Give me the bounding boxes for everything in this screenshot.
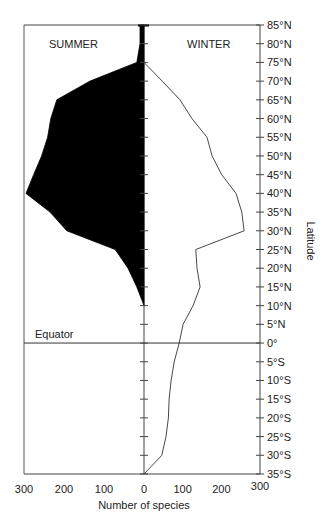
latitude-tick-label: 25°S — [267, 431, 291, 443]
winter-label: WINTER — [187, 38, 230, 50]
latitude-tick-label: 5°N — [267, 318, 286, 330]
latitude-tick-label: 25°N — [267, 244, 292, 256]
summer-series-area — [26, 25, 144, 306]
species-tick-label-winter: 200 — [212, 483, 230, 495]
latitude-tick-label: 75°N — [267, 56, 292, 68]
latitude-tick-label: 65°N — [267, 94, 292, 106]
species-axis-ticks: 3002001000100200300 — [15, 480, 269, 495]
summer-label: SUMMER — [49, 38, 98, 50]
latitude-tick-label: 35°S — [267, 468, 291, 480]
latitude-tick-label: 60°N — [267, 113, 292, 125]
latitude-tick-label: 45°N — [267, 169, 292, 181]
species-tick-label-winter: 100 — [173, 483, 191, 495]
species-tick-label-summer: 300 — [15, 483, 33, 495]
winter-series-line — [144, 62, 244, 474]
latitude-tick-label: 15°S — [267, 393, 291, 405]
species-tick-label-summer: 0 — [141, 483, 147, 495]
latitude-tick-label: 50°N — [267, 150, 292, 162]
latitude-tick-label: 20°S — [267, 412, 291, 424]
latitude-tick-label: 30°N — [267, 225, 292, 237]
latitude-axis: 85°N80°N75°N70°N65°N60°N55°N50°N45°N40°N… — [256, 19, 292, 480]
latitude-tick-label: 85°N — [267, 19, 292, 31]
species-tick-label-summer: 100 — [95, 483, 113, 495]
latitude-tick-label: 40°N — [267, 187, 292, 199]
latitude-tick-label: 0° — [267, 337, 278, 349]
latitude-tick-label: 10°N — [267, 300, 292, 312]
latitude-tick-label: 70°N — [267, 75, 292, 87]
latitude-tick-label: 30°S — [267, 449, 291, 461]
latitude-tick-label: 10°S — [267, 374, 291, 386]
latitude-tick-label: 15°N — [267, 281, 292, 293]
latitude-tick-label: 35°N — [267, 206, 292, 218]
latitude-tick-label: 55°N — [267, 131, 292, 143]
latitude-tick-label: 5°S — [267, 356, 285, 368]
x-axis-title: Number of species — [98, 499, 190, 511]
species-tick-label-winter: 300 — [251, 480, 269, 492]
latitude-tick-label: 80°N — [267, 38, 292, 50]
species-tick-label-summer: 200 — [55, 483, 73, 495]
y-axis-title: Latitude — [305, 221, 317, 260]
species-latitude-chart: 85°N80°N75°N70°N65°N60°N55°N50°N45°N40°N… — [0, 0, 331, 527]
latitude-tick-label: 20°N — [267, 262, 292, 274]
equator-label: Equator — [35, 328, 74, 340]
